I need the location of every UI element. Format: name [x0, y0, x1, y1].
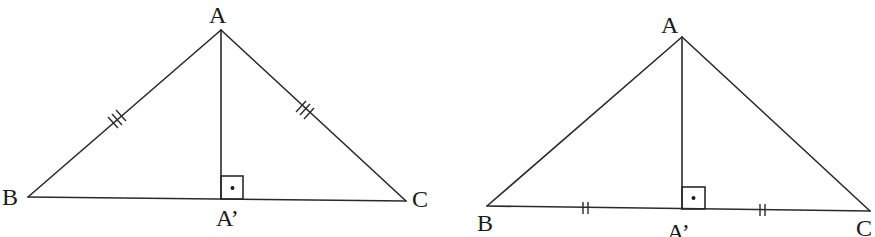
- label-a: A: [661, 12, 679, 38]
- triple-tick-ac: [296, 101, 314, 119]
- figure-left-triangle: A B C A’: [2, 2, 428, 231]
- side-bc: [487, 206, 870, 211]
- side-ac: [221, 30, 406, 201]
- label-b: B: [2, 184, 18, 210]
- label-a: A: [209, 2, 227, 28]
- right-angle-dot: [692, 196, 696, 200]
- label-b: B: [477, 210, 493, 236]
- label-c: C: [412, 186, 428, 212]
- figure-right-triangle: A B C A’: [477, 12, 872, 237]
- right-angle-dot: [231, 186, 235, 190]
- label-c: C: [856, 215, 872, 237]
- side-ac: [682, 37, 870, 211]
- side-bc: [28, 197, 406, 201]
- side-ab: [28, 30, 221, 197]
- label-foot: A’: [216, 205, 239, 231]
- label-foot: A’: [667, 219, 690, 237]
- side-ab: [487, 37, 682, 206]
